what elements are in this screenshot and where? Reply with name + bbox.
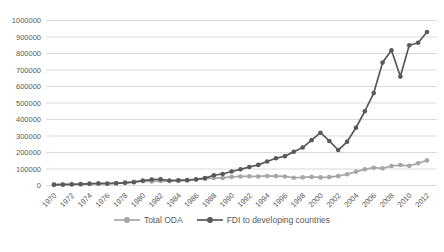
data-point-marker [114,181,119,186]
data-point-marker [52,183,57,188]
data-point-marker [194,177,199,182]
data-point-marker [256,163,261,168]
data-point-marker [69,182,74,187]
x-axis-label: 2010 [395,191,413,209]
data-point-marker [327,175,332,180]
data-point-marker [345,172,350,177]
data-point-marker [247,174,252,179]
data-point-marker [212,173,217,178]
data-point-marker [407,164,412,169]
data-point-marker [380,166,385,171]
data-point-marker [407,43,412,48]
data-point-marker [398,74,403,79]
legend-label-fdi: FDI to developing countries [227,215,330,225]
x-axis-label: 2008 [378,191,396,209]
data-point-marker [389,48,394,53]
x-axis-label: 1972 [58,191,76,209]
data-point-marker [309,175,314,180]
data-point-marker [354,125,359,130]
y-axis-label: 400000 [16,115,41,124]
data-point-marker [318,175,323,180]
x-axis-label: 1976 [94,191,112,209]
x-axis-label: 2000 [307,191,325,209]
data-point-marker [283,154,288,159]
fdi-line [54,32,427,185]
data-point-marker [265,174,270,179]
y-axis-label: 0 [37,181,41,190]
data-point-marker [203,176,208,181]
x-axis-label: 1996 [271,191,289,209]
legend-item-total-oda[interactable]: Total ODA [114,215,183,225]
x-axis-label: 2002 [324,191,342,209]
data-point-marker [345,139,350,144]
data-point-marker [105,181,110,186]
x-axis-label: 1978 [111,191,129,209]
legend-item-fdi[interactable]: FDI to developing countries [197,215,330,225]
data-point-marker [158,177,163,182]
x-axis-label: 1988 [200,191,218,209]
data-point-marker [318,130,323,135]
data-point-marker [220,172,225,177]
data-point-marker [247,165,252,170]
data-point-marker [309,138,314,143]
line-chart: 0100000200000300000400000500000600000700… [0,0,444,252]
y-axis-label: 700000 [16,66,41,75]
data-point-marker [123,181,128,186]
data-point-marker [416,40,421,45]
y-axis-label: 1000000 [12,16,41,25]
x-axis-label: 2006 [360,191,378,209]
data-point-marker [283,174,288,179]
data-point-marker [354,169,359,174]
data-point-marker [87,182,92,187]
data-point-marker [300,175,305,180]
y-axis-label: 500000 [16,99,41,108]
data-point-marker [336,174,341,179]
data-point-marker [363,109,368,114]
data-point-marker [274,174,279,179]
data-point-marker [363,167,368,172]
x-axis-label: 1974 [76,191,94,209]
data-point-marker [132,180,137,185]
data-point-marker [220,176,225,181]
x-axis-label: 1986 [182,191,200,209]
data-point-marker [389,164,394,169]
data-point-marker [300,145,305,150]
data-point-marker [256,174,261,179]
data-point-marker [425,158,430,163]
data-point-marker [149,177,154,182]
y-axis-label: 200000 [16,148,41,157]
data-point-marker [238,167,243,172]
data-point-marker [291,175,296,180]
data-point-marker [265,159,270,164]
data-point-marker [61,182,66,187]
data-point-marker [185,178,190,183]
data-point-marker [229,169,234,174]
total-oda-line-marker-icon [114,216,140,224]
data-point-marker [238,174,243,179]
data-point-marker [176,178,181,183]
data-point-marker [274,156,279,161]
x-axis-label: 1990 [218,191,236,209]
legend: Total ODA FDI to developing countries [0,215,444,225]
y-axis-label: 800000 [16,49,41,58]
data-point-marker [78,182,83,187]
data-point-marker [141,178,146,183]
data-point-marker [336,148,341,153]
x-axis-label: 1982 [147,191,165,209]
total-oda-line [54,160,427,184]
y-axis-label: 600000 [16,82,41,91]
data-point-marker [327,139,332,144]
x-axis-label: 1984 [165,191,183,209]
data-point-marker [371,165,376,170]
x-axis-label: 2004 [342,191,360,209]
fdi-line-marker-icon [197,216,223,224]
legend-label-total-oda: Total ODA [144,215,183,225]
data-point-marker [380,60,385,65]
data-point-marker [398,163,403,168]
x-axis-label: 1994 [253,191,271,209]
data-point-marker [371,91,376,96]
data-point-marker [229,175,234,180]
data-point-marker [425,30,430,35]
x-axis-label: 1970 [40,191,58,209]
x-axis-label: 2012 [413,191,431,209]
